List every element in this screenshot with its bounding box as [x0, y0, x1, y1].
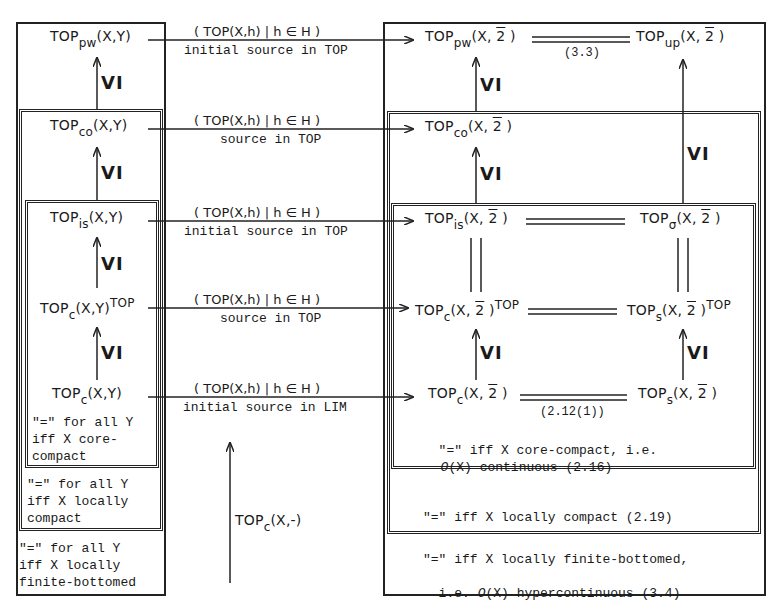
- inclusion-label: VI: [101, 72, 124, 93]
- right-note-locally-compact: "=" iff X locally compact (2.19): [423, 509, 673, 526]
- right-term-co: TOPco(X, 2 ): [425, 118, 512, 140]
- source-family-3: ( TOP(X,h) | h ∈ H ): [194, 205, 320, 220]
- equality-ref-3-3: (3.3): [564, 46, 600, 60]
- right-term-s: TOPs(X, 2 ): [638, 385, 717, 407]
- right-term-sigma: TOPσ(X, 2 ): [640, 210, 721, 232]
- inclusion-label: VI: [687, 342, 710, 363]
- left-term-is: TOPis(X,Y): [50, 209, 123, 231]
- source-family-4: ( TOP(X,h) | h ∈ H ): [194, 292, 320, 307]
- right-note-continuous: O(X) continuous (2.16): [425, 442, 612, 476]
- right-note-hypercontinuous: i.e. O(X) hypercontinuous (3.4): [423, 568, 680, 602]
- inclusion-label: VI: [480, 74, 503, 95]
- source-label-2: source in TOP: [220, 132, 321, 147]
- right-term-is: TOPis(X, 2 ): [425, 210, 508, 232]
- left-term-pw: TOPpw(X,Y): [50, 28, 131, 50]
- inclusion-label: VI: [480, 163, 503, 184]
- equality-ref-2-12-1: (2.12(1)): [540, 405, 605, 419]
- right-term-c-top: TOPc(X, 2 )TOP: [415, 298, 519, 324]
- source-family-1: ( TOP(X,h) | h ∈ H ): [194, 24, 320, 39]
- source-label-5: initial source in LIM: [183, 400, 347, 415]
- right-term-s-top: TOPs(X, 2 )TOP: [627, 298, 731, 324]
- left-term-c: TOPc(X,Y): [52, 385, 122, 407]
- source-label-4: source in TOP: [220, 311, 321, 326]
- source-label-1: initial source in TOP: [184, 43, 348, 58]
- inclusion-label: VI: [687, 143, 710, 164]
- left-term-c-top: TOPc(X,Y)TOP: [40, 296, 135, 322]
- right-term-up: TOPup(X, 2 ): [636, 28, 724, 50]
- inclusion-label: VI: [101, 253, 124, 274]
- inclusion-label: VI: [101, 162, 124, 183]
- left-term-co: TOPco(X,Y): [50, 117, 128, 139]
- functor-label: TOPc(X,-): [235, 512, 301, 534]
- source-label-3: initial source in TOP: [184, 224, 348, 239]
- source-family-5: ( TOP(X,h) | h ∈ H ): [194, 381, 320, 396]
- right-term-pw: TOPpw(X, 2 ): [425, 28, 516, 50]
- left-note-core-compact: "=" for all Y iff X core- compact: [32, 414, 133, 465]
- right-note-finite-bottomed: "=" iff X locally finite-bottomed,: [423, 551, 688, 568]
- left-note-finite-bottomed: "=" for all Y iff X locally finite-botto…: [19, 540, 136, 591]
- left-note-locally-compact: "=" for all Y iff X locally compact: [27, 476, 128, 527]
- inclusion-label: VI: [480, 342, 503, 363]
- source-family-2: ( TOP(X,h) | h ∈ H ): [194, 113, 320, 128]
- inclusion-label: VI: [101, 342, 124, 363]
- right-term-c: TOPc(X, 2 ): [428, 385, 508, 407]
